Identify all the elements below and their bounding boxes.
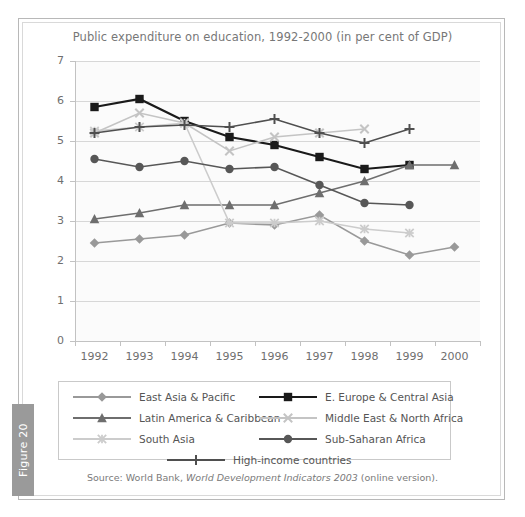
y-tick-label: 6	[38, 94, 64, 107]
data-point-square	[284, 393, 292, 401]
legend-marker-square-icon	[259, 388, 317, 406]
legend-label: E. Europe & Central Asia	[325, 391, 454, 403]
data-point-diamond	[97, 392, 107, 402]
x-tick-label: 1996	[252, 350, 298, 363]
legend-item[interactable]: Latin America & Caribbean	[73, 409, 280, 427]
y-tick-mark	[70, 181, 75, 182]
x-tick-mark	[120, 341, 121, 346]
legend-item[interactable]: Sub-Saharan Africa	[259, 430, 426, 448]
y-tick-label: 2	[38, 254, 64, 267]
chart-title: Public expenditure on education, 1992-20…	[30, 30, 495, 44]
y-tick-label: 1	[38, 294, 64, 307]
gridline	[75, 261, 480, 262]
data-point-circle	[284, 435, 292, 443]
x-tick-mark	[210, 341, 211, 346]
y-tick-mark	[70, 221, 75, 222]
x-tick-label: 1998	[342, 350, 388, 363]
x-tick-mark	[390, 341, 391, 346]
legend-label: Sub-Saharan Africa	[325, 433, 426, 445]
gridline	[75, 221, 480, 222]
source-note: Source: World Bank, World Development In…	[40, 472, 485, 483]
legend-item[interactable]: E. Europe & Central Asia	[259, 388, 454, 406]
legend-item[interactable]: High-income countries	[167, 451, 352, 469]
gridline	[75, 61, 480, 62]
y-tick-label: 3	[38, 214, 64, 227]
legend-item[interactable]: East Asia & Pacific	[73, 388, 235, 406]
source-prefix: Source: World Bank,	[87, 472, 186, 483]
gridline	[75, 301, 480, 302]
figure-container: Figure 20 Public expenditure on educatio…	[0, 0, 525, 517]
x-tick-mark	[255, 341, 256, 346]
gridline	[75, 181, 480, 182]
y-tick-label: 0	[38, 334, 64, 347]
legend-label: South Asia	[139, 433, 195, 445]
plot-area	[75, 61, 480, 341]
chart-legend: East Asia & PacificE. Europe & Central A…	[58, 381, 451, 460]
x-tick-mark	[75, 341, 76, 346]
legend-item[interactable]: South Asia	[73, 430, 195, 448]
y-tick-label: 4	[38, 174, 64, 187]
y-tick-mark	[70, 61, 75, 62]
y-tick-label: 5	[38, 134, 64, 147]
gridline	[75, 141, 480, 142]
data-point-x	[284, 414, 292, 422]
legend-label: Middle East & North Africa	[325, 412, 463, 424]
data-point-star	[98, 435, 106, 443]
legend-label: High-income countries	[233, 454, 352, 466]
figure-number-tab: Figure 20	[12, 404, 34, 496]
legend-marker-plus-icon	[167, 451, 225, 469]
legend-marker-diamond-icon	[73, 388, 131, 406]
y-tick-mark	[70, 301, 75, 302]
x-tick-label: 1999	[387, 350, 433, 363]
legend-marker-x-icon	[259, 409, 317, 427]
x-tick-mark	[165, 341, 166, 346]
x-tick-label: 1994	[162, 350, 208, 363]
x-tick-mark	[345, 341, 346, 346]
legend-label: East Asia & Pacific	[139, 391, 235, 403]
x-tick-label: 1992	[72, 350, 118, 363]
data-point-plus	[191, 455, 201, 465]
y-tick-mark	[70, 141, 75, 142]
y-axis-line	[75, 61, 76, 342]
x-tick-label: 2000	[432, 350, 478, 363]
source-publication-title: World Development Indicators 2003	[186, 472, 358, 483]
legend-marker-triangle-icon	[73, 409, 131, 427]
legend-marker-circle-icon	[259, 430, 317, 448]
data-point-triangle	[97, 413, 107, 422]
gridline	[75, 101, 480, 102]
x-tick-label: 1993	[117, 350, 163, 363]
y-tick-mark	[70, 101, 75, 102]
x-tick-mark	[435, 341, 436, 346]
x-tick-label: 1995	[207, 350, 253, 363]
x-tick-mark	[300, 341, 301, 346]
source-suffix: (online version).	[358, 472, 438, 483]
y-tick-label: 7	[38, 54, 64, 67]
figure-number-label: Figure 20	[17, 423, 30, 477]
x-axis-line	[75, 341, 481, 342]
x-tick-mark	[480, 341, 481, 346]
legend-item[interactable]: Middle East & North Africa	[259, 409, 463, 427]
y-tick-mark	[70, 261, 75, 262]
legend-marker-star-icon	[73, 430, 131, 448]
x-tick-label: 1997	[297, 350, 343, 363]
